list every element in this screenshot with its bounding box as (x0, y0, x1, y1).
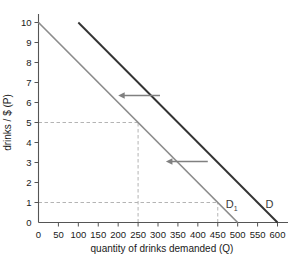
x-tick-label: 50 (53, 229, 64, 240)
chart-background (0, 0, 294, 258)
y-tick-label: 2 (26, 177, 31, 188)
y-tick-label: 3 (26, 157, 31, 168)
y-tick-label: 1 (26, 197, 31, 208)
y-tick-label: 8 (26, 57, 31, 68)
y-tick-label: 6 (26, 97, 31, 108)
y-tick-label: 4 (26, 137, 31, 148)
y-tick-label: 5 (26, 117, 31, 128)
y-tick-label: 7 (26, 77, 31, 88)
x-axis-title: quantity of drinks demanded (Q) (91, 243, 234, 254)
x-tick-label: 450 (210, 229, 226, 240)
curve-label-text: D (226, 198, 234, 210)
x-tick-label: 500 (230, 229, 246, 240)
x-tick-label: 350 (170, 229, 186, 240)
x-tick-label: 550 (250, 229, 266, 240)
x-tick-label: 200 (110, 229, 126, 240)
y-tick-label: 10 (21, 17, 32, 28)
x-tick-label: 250 (130, 229, 146, 240)
y-tick-label: 9 (26, 37, 31, 48)
x-tick-label: 600 (270, 229, 286, 240)
x-tick-label: 400 (190, 229, 206, 240)
curve-label-text: D (266, 198, 274, 210)
x-tick-label: 100 (70, 229, 86, 240)
demand-curve-figure: 050100150200250300350400450500550600 012… (0, 0, 294, 258)
x-tick-label: 150 (90, 229, 106, 240)
y-axis-title: drinks / $ (P) (2, 94, 13, 151)
x-tick-label: 300 (150, 229, 166, 240)
x-tick-label: 0 (36, 229, 41, 240)
demand-shift-chart: 050100150200250300350400450500550600 012… (0, 0, 294, 258)
curve-label-D: D (266, 198, 274, 210)
y-tick-label: 0 (26, 217, 31, 228)
curve-label-subscript: 1 (234, 205, 238, 212)
